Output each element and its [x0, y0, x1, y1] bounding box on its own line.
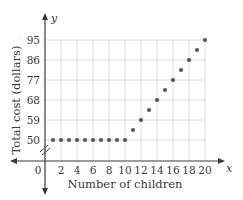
x-tick-label: 16	[166, 164, 180, 176]
y-tick-label: 68	[27, 94, 40, 106]
x-tick-label: 2	[58, 164, 65, 176]
data-point	[67, 138, 71, 142]
data-point	[115, 138, 119, 142]
y-tick-label: 59	[27, 114, 40, 126]
data-point	[107, 138, 111, 142]
data-point	[75, 138, 79, 142]
x-tick-label: 12	[134, 164, 147, 176]
data-point	[99, 138, 103, 142]
data-points	[51, 38, 207, 142]
data-point	[123, 138, 127, 142]
scatter-chart: x y 02468101214161820 505968778695 Numbe…	[0, 0, 243, 200]
y-tick-labels: 505968778695	[27, 34, 41, 146]
data-point	[59, 138, 63, 142]
x-tick-label: 10	[118, 164, 131, 176]
data-point	[83, 138, 87, 142]
y-tick-label: 95	[27, 34, 40, 46]
y-axis-top-arrow	[42, 13, 48, 20]
x-axis-title: Number of children	[68, 177, 183, 191]
x-axis-variable: x	[226, 162, 233, 175]
grid-lines	[45, 40, 206, 161]
y-tick-label: 77	[27, 74, 40, 86]
data-point	[179, 68, 183, 72]
x-axis-right-arrow	[218, 158, 225, 164]
data-point	[163, 88, 167, 92]
x-tick-label: 6	[90, 164, 97, 176]
x-tick-label: 14	[150, 164, 164, 176]
data-point	[91, 138, 95, 142]
x-tick-label: 8	[106, 164, 113, 176]
data-point	[187, 58, 191, 62]
data-point	[203, 38, 207, 42]
data-point	[131, 128, 135, 132]
x-tick-label: 20	[198, 164, 211, 176]
data-point	[51, 138, 55, 142]
y-axis-title: Total cost (dollars)	[9, 46, 23, 155]
data-point	[195, 48, 199, 52]
data-point	[139, 118, 143, 122]
x-tick-label: 4	[74, 164, 81, 176]
data-point	[155, 98, 159, 102]
data-point	[147, 108, 151, 112]
data-point	[171, 78, 175, 82]
x-tick-label: 0	[35, 164, 42, 176]
x-tick-label: 18	[182, 164, 195, 176]
y-tick-label: 86	[27, 54, 41, 66]
x-axis-left-arrow	[10, 158, 17, 164]
y-axis-variable: y	[50, 12, 58, 25]
x-tick-labels: 02468101214161820	[35, 164, 212, 176]
y-tick-label: 50	[27, 134, 40, 146]
y-axis-bottom-arrow	[42, 188, 48, 195]
